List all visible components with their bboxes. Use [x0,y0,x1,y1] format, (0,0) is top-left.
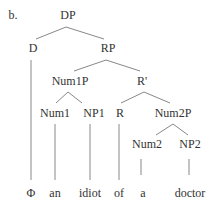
node-num2: Num2 [132,138,162,150]
node-num1: Num1 [40,107,70,119]
leaf-of: of [114,187,124,199]
syntax-tree-diagram: b. DP D RP Num1P R' Num1 NP1 R Num2P Num… [0,0,218,209]
leaf-doctor: doctor [175,187,206,199]
leaf-an: an [49,187,60,199]
node-rbar: R' [137,75,147,87]
node-dp: DP [60,9,75,21]
node-r: R [116,107,124,119]
leaf-a: a [140,187,145,199]
node-num2p: Num2P [155,107,192,119]
node-d: D [29,42,38,54]
example-label: b. [9,9,18,21]
leaf-idiot: idiot [79,187,101,199]
leaf-phi: Φ [27,187,36,199]
tree-branches [0,0,218,209]
node-np1: NP1 [83,107,104,119]
node-rp: RP [101,42,116,54]
node-num1p: Num1P [52,75,89,87]
node-np2: NP2 [179,138,200,150]
